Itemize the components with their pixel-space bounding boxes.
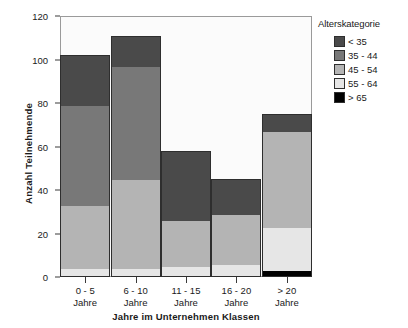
x-tick-label: 6 - 10Jahre bbox=[123, 285, 147, 309]
x-tick-label: 0 - 5Jahre bbox=[73, 285, 97, 309]
legend-label: 55 - 64 bbox=[348, 78, 378, 89]
legend-swatch-icon bbox=[334, 78, 345, 89]
y-tick-label: 20 bbox=[37, 228, 48, 239]
y-tick-label: 100 bbox=[32, 54, 48, 65]
y-tick-label: 60 bbox=[37, 141, 48, 152]
bar-segment[interactable] bbox=[60, 105, 110, 206]
legend-item[interactable]: 55 - 64 bbox=[334, 77, 406, 89]
x-axis bbox=[60, 277, 312, 285]
x-tick-label: 16 - 20Jahre bbox=[222, 285, 252, 309]
y-axis: 020406080100120 bbox=[0, 0, 60, 328]
legend-label: < 35 bbox=[348, 36, 367, 47]
legend-swatch-icon bbox=[334, 92, 345, 103]
y-tick-label: 120 bbox=[32, 11, 48, 22]
x-tick-mark bbox=[186, 277, 187, 283]
x-tick-label: 11 - 15Jahre bbox=[172, 285, 201, 309]
bar-segment[interactable] bbox=[111, 179, 161, 269]
stacked-bar-chart: Anzahl Teilnehmende 020406080100120 0 - … bbox=[0, 0, 408, 328]
legend-swatch-icon bbox=[334, 64, 345, 75]
x-tick-mark bbox=[236, 277, 237, 283]
legend-items: < 3535 - 4445 - 5455 - 64> 65 bbox=[334, 35, 406, 103]
x-tick-label: > 20Jahre bbox=[275, 285, 299, 309]
legend-label: 35 - 44 bbox=[348, 50, 378, 61]
y-tick-label: 40 bbox=[37, 185, 48, 196]
bar-segment[interactable] bbox=[111, 268, 161, 277]
bar-stack[interactable] bbox=[262, 16, 312, 277]
legend-item[interactable]: < 35 bbox=[334, 35, 406, 47]
bar-segment[interactable] bbox=[262, 114, 312, 132]
bar-stack[interactable] bbox=[161, 16, 211, 277]
legend-item[interactable]: > 65 bbox=[334, 91, 406, 103]
bar-segment[interactable] bbox=[60, 268, 110, 277]
bar-segment[interactable] bbox=[111, 36, 161, 67]
bar-segment[interactable] bbox=[161, 266, 211, 277]
legend-title: Alterskategorie bbox=[318, 18, 406, 29]
x-tick-mark bbox=[136, 277, 137, 283]
x-tick-mark bbox=[287, 277, 288, 283]
legend-swatch-icon bbox=[334, 50, 345, 61]
bar-segment[interactable] bbox=[60, 55, 110, 106]
bar-segment[interactable] bbox=[161, 151, 211, 222]
x-tick-mark bbox=[85, 277, 86, 283]
legend-swatch-icon bbox=[334, 36, 345, 47]
bar-segment[interactable] bbox=[161, 220, 211, 267]
bar-segment[interactable] bbox=[211, 179, 261, 215]
y-tick-label: 80 bbox=[37, 98, 48, 109]
legend-label: 45 - 54 bbox=[348, 64, 378, 75]
bar-segment[interactable] bbox=[262, 131, 312, 228]
bar-segment[interactable] bbox=[60, 205, 110, 269]
legend-item[interactable]: 45 - 54 bbox=[334, 63, 406, 75]
bar-stack[interactable] bbox=[111, 16, 161, 277]
bar-stack[interactable] bbox=[211, 16, 261, 277]
legend-label: > 65 bbox=[348, 92, 367, 103]
legend-item[interactable]: 35 - 44 bbox=[334, 49, 406, 61]
x-axis-title: Jahre im Unternehmen Klassen bbox=[60, 311, 312, 322]
bar-segment[interactable] bbox=[211, 264, 261, 277]
bar-stack[interactable] bbox=[60, 16, 110, 277]
bar-segment[interactable] bbox=[262, 227, 312, 272]
bar-segment[interactable] bbox=[111, 66, 161, 180]
bars-layer bbox=[60, 16, 312, 277]
y-tick-label: 0 bbox=[43, 272, 48, 283]
legend: Alterskategorie < 3535 - 4445 - 5455 - 6… bbox=[318, 18, 406, 105]
bar-segment[interactable] bbox=[211, 214, 261, 265]
